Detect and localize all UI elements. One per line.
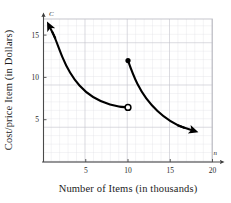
x-axis-title: Number of Items (in thousands)	[59, 183, 198, 195]
y-axis-symbol: C	[49, 10, 54, 18]
y-tick-label-15: 15	[32, 31, 40, 40]
y-tick-label-10: 10	[32, 73, 40, 82]
grid-group	[44, 19, 213, 162]
x-axis-symbol: n	[214, 149, 218, 157]
x-tick-label-15: 15	[167, 166, 175, 175]
y-tick-label-5: 5	[35, 115, 39, 124]
x-tick-label-20: 20	[209, 166, 217, 175]
y-axis-title: Cost/price Item (in Dollars)	[3, 29, 15, 150]
curve-1-open-circle-marker	[125, 105, 131, 111]
chart-canvas: 15 10 5 5 10 15 20 C n Number of Items (…	[0, 0, 231, 203]
x-tick-label-5: 5	[84, 166, 88, 175]
chart-figure: 15 10 5 5 10 15 20 C n Number of Items (…	[0, 0, 231, 203]
curve-2-filled-dot-marker	[125, 58, 130, 63]
x-tick-label-10: 10	[124, 166, 132, 175]
major-gridlines	[44, 19, 213, 162]
